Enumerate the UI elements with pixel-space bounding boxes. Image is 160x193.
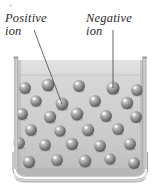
ion-sphere <box>130 111 142 124</box>
ion-sphere <box>25 124 37 137</box>
ion-sphere <box>51 154 63 167</box>
ion-sphere <box>89 95 101 108</box>
ion-sphere <box>30 95 42 107</box>
ion-sphere <box>39 139 51 152</box>
ion-sphere <box>19 82 31 95</box>
beaker-artwork <box>0 0 160 193</box>
ion-sphere <box>73 80 85 93</box>
ion-sphere <box>82 124 94 137</box>
ion-sphere <box>44 111 56 124</box>
ion-sphere <box>71 108 84 122</box>
ion-sphere <box>79 155 92 169</box>
ion-sphere <box>100 110 112 123</box>
ion-sphere <box>124 138 136 151</box>
ion-sphere <box>94 140 106 153</box>
ion-sphere <box>121 97 133 110</box>
ion-solution-figure: Positive ion Negative ion <box>0 0 160 193</box>
ion-sphere <box>54 125 66 137</box>
ion-sphere <box>56 98 69 112</box>
ion-sphere <box>23 156 35 169</box>
ion-sphere <box>42 79 55 92</box>
ion-sphere <box>66 138 78 151</box>
ion-sphere <box>128 157 140 170</box>
ion-sphere <box>112 123 124 136</box>
ion-sphere <box>131 84 143 97</box>
ion-sphere <box>104 153 116 165</box>
